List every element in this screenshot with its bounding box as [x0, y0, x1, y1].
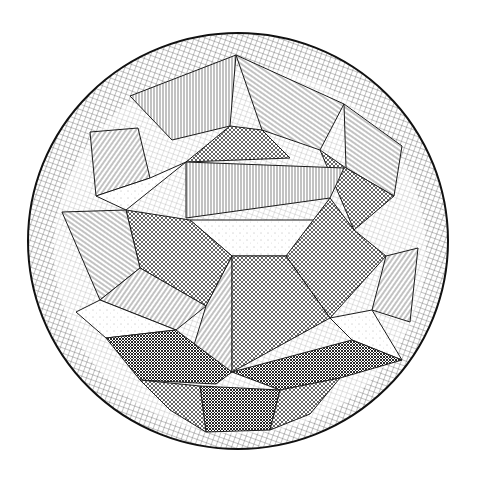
facet-bottom-apex [200, 386, 280, 432]
polyhedron-engraving [0, 0, 477, 480]
